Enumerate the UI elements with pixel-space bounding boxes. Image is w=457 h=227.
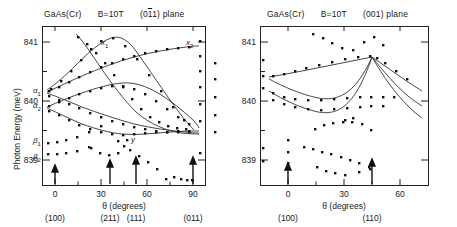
- dir-label-left-100: (100): [39, 213, 71, 223]
- x-tick-right-60: 60: [388, 189, 412, 199]
- branch-label-alpha1: α1: [33, 86, 41, 97]
- x-tick-right-0: 0: [276, 189, 300, 199]
- panel-left: GaAs(Cr) B=10T (011) plane Photon Energy…: [0, 0, 232, 227]
- dir-label-left-111: (111): [120, 213, 152, 223]
- figure-root: GaAs(Cr) B=10T (011) plane Photon Energy…: [0, 0, 457, 227]
- x-tick-right-30: 30: [332, 189, 356, 199]
- x-tick-left-60: 60: [135, 189, 159, 199]
- branch-label-x2: x2: [186, 38, 193, 49]
- x-tick-left-90: 90: [181, 189, 205, 199]
- x-tick-left-0: 0: [43, 189, 67, 199]
- direction-arrows-right: [285, 159, 375, 184]
- x-axis-label-right: θ (degrees): [294, 201, 394, 211]
- dir-label-right-100: (100): [272, 213, 304, 223]
- x-tick-left-30: 30: [89, 189, 113, 199]
- dir-label-right-110: (110): [356, 213, 388, 223]
- direction-arrows-left: [52, 157, 196, 184]
- branch-label-y: y: [131, 135, 135, 144]
- dir-label-left-011: (011): [177, 213, 209, 223]
- branch-label-beta1: β1: [33, 136, 41, 147]
- data-points-right: [262, 33, 408, 176]
- x-axis-label-left: θ (degrees): [74, 201, 174, 211]
- branch-label-beta2: β2: [33, 152, 41, 163]
- branch-label-x1: x1: [101, 38, 108, 49]
- plot-frame-left: [43, 27, 206, 186]
- curves-right: [269, 57, 422, 118]
- branch-label-alpha2: α2: [33, 101, 41, 112]
- panel-right: GaAs(Cr) B=10T (001) plane 841 840 839: [232, 0, 457, 227]
